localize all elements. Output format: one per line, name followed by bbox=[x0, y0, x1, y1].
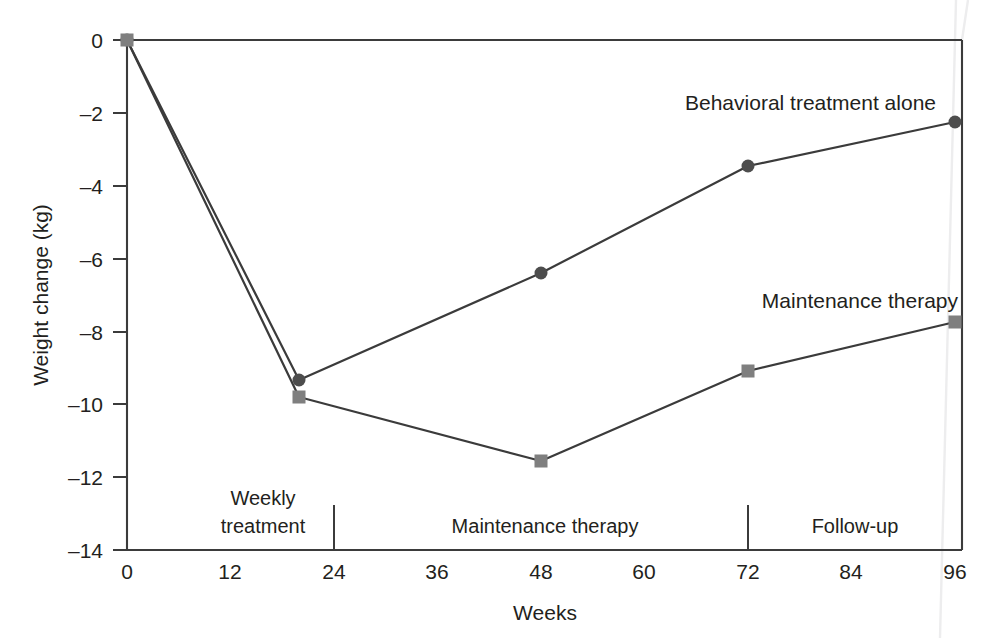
x-axis-title: Weeks bbox=[513, 601, 577, 624]
series-inline-labels: Behavioral treatment alone Maintenance t… bbox=[685, 91, 958, 312]
x-axis-tick-labels: 0 12 24 36 48 60 72 84 96 bbox=[121, 560, 967, 583]
y-tick-label-7: –14 bbox=[68, 539, 103, 562]
data-point-behavioral-w72 bbox=[742, 160, 755, 173]
chart-figure: 0 –2 –4 –6 –8 –10 –12 –14 0 12 24 36 48 … bbox=[0, 0, 998, 638]
x-tick-label-96: 96 bbox=[943, 560, 966, 583]
series-behavioral-treatment-alone bbox=[121, 34, 962, 387]
x-tick-label-0: 0 bbox=[121, 560, 133, 583]
data-point-behavioral-w20 bbox=[293, 374, 306, 387]
y-axis-tick-labels: 0 –2 –4 –6 –8 –10 –12 –14 bbox=[68, 29, 103, 562]
phase-labels: Weekly treatment Maintenance therapy Fol… bbox=[221, 487, 899, 537]
x-tick-label-36: 36 bbox=[425, 560, 448, 583]
x-tick-label-84: 84 bbox=[839, 560, 863, 583]
data-point-behavioral-w96 bbox=[949, 116, 962, 129]
series-label-behavioral: Behavioral treatment alone bbox=[685, 91, 936, 114]
y-tick-label-2: –4 bbox=[80, 175, 104, 198]
phase-label-maintenance: Maintenance therapy bbox=[452, 515, 639, 537]
data-point-maintenance-w0 bbox=[121, 34, 134, 47]
phase-label-followup: Follow-up bbox=[812, 515, 899, 537]
x-tick-label-24: 24 bbox=[322, 560, 346, 583]
y-axis-ticks bbox=[113, 40, 127, 550]
phase-label-weekly-line1: Weekly bbox=[230, 487, 295, 509]
y-tick-label-0: 0 bbox=[91, 29, 103, 52]
x-tick-label-72: 72 bbox=[736, 560, 759, 583]
data-point-maintenance-w72 bbox=[742, 365, 755, 378]
x-tick-label-60: 60 bbox=[632, 560, 655, 583]
x-tick-label-12: 12 bbox=[218, 560, 241, 583]
data-point-behavioral-w48 bbox=[535, 267, 548, 280]
y-tick-label-3: –6 bbox=[80, 248, 103, 271]
y-tick-label-5: –10 bbox=[68, 393, 103, 416]
x-tick-label-48: 48 bbox=[529, 560, 552, 583]
data-point-maintenance-w48 bbox=[535, 455, 548, 468]
data-point-maintenance-w96 bbox=[949, 316, 962, 329]
phase-label-weekly-line2: treatment bbox=[221, 515, 306, 537]
data-point-maintenance-w20 bbox=[293, 391, 306, 404]
y-axis-title: Weight change (kg) bbox=[29, 204, 52, 386]
y-tick-label-6: –12 bbox=[68, 466, 103, 489]
y-tick-label-4: –8 bbox=[80, 321, 103, 344]
weight-change-line-chart: 0 –2 –4 –6 –8 –10 –12 –14 0 12 24 36 48 … bbox=[0, 0, 998, 638]
y-tick-label-1: –2 bbox=[80, 102, 103, 125]
series-label-maintenance: Maintenance therapy bbox=[762, 289, 959, 312]
